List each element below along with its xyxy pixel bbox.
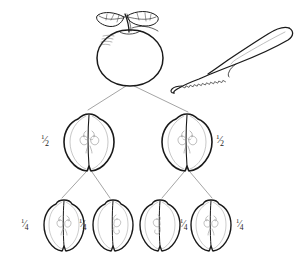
quarter-apple-1-lobe-right [66, 202, 79, 249]
label-quarter-2: 1⁄4 [79, 218, 86, 231]
quarter-apple-1 [44, 200, 84, 251]
label-quarter-1-denominator: 4 [25, 223, 28, 232]
label-quarter-3-denominator: 4 [184, 223, 187, 232]
quarter-apple-4-core [204, 216, 218, 235]
label-half-left-denominator: 2 [45, 139, 49, 148]
quarter-apple-1-core [57, 216, 71, 235]
apple-fraction-diagram: 1⁄2 1⁄2 1⁄4 1⁄4 1⁄4 1⁄4 [0, 0, 303, 270]
label-half-right: 1⁄2 [216, 134, 224, 148]
quarter-apple-4 [191, 200, 231, 251]
label-quarter-4-denominator: 4 [240, 223, 243, 232]
label-quarter-3: 1⁄4 [180, 218, 187, 231]
label-quarter-4: 1⁄4 [236, 218, 243, 231]
quarter-apple-3-lobe-left [145, 202, 158, 249]
quarter-apple-4-lobe-left [196, 202, 209, 249]
label-quarter-2-denominator: 4 [83, 223, 86, 232]
quarter-apple-1-lobe-left [49, 202, 62, 249]
quarter-apple-3 [140, 200, 180, 251]
label-half-right-denominator: 2 [220, 139, 224, 148]
quarter-apple-4-lobe-right [213, 202, 226, 249]
label-half-left: 1⁄2 [41, 134, 49, 148]
quarter-apple-2 [93, 200, 133, 251]
quarter-apple-2-lobe-left [98, 202, 111, 249]
quarter-apple-2-center-seam [112, 201, 113, 246]
quarter-apple-2-core [114, 215, 121, 234]
quarter-apple-3-lobe-right [162, 202, 175, 249]
quarter-apple-2-lobe-right [115, 202, 128, 249]
label-quarter-1: 1⁄4 [21, 218, 28, 231]
